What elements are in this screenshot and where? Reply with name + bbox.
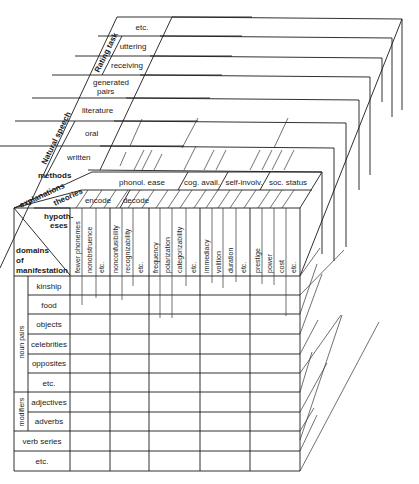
theory-cog-avail: cog. avail. <box>184 178 220 187</box>
domain-adjectives: adjectives <box>31 398 67 407</box>
method-receiving: receiving <box>111 61 143 70</box>
theory-soc-status: soc. status <box>269 178 307 187</box>
domain-adverbs: adverbs <box>35 417 63 426</box>
methods-label: methods <box>38 171 72 180</box>
domain-nounpairs-etc: etc. <box>43 379 56 388</box>
method-etc: etc. <box>136 23 149 32</box>
domains-of-label: of <box>16 256 24 265</box>
hyp-etc-2: etc. <box>137 262 144 273</box>
hyp-recognizability: recognizability <box>124 228 132 273</box>
hyp-etc-5: etc. <box>290 262 297 273</box>
hyp-polarization: polarization <box>164 237 172 273</box>
hyp-etc-3: etc. <box>190 262 197 273</box>
hyp-cost: cost <box>278 260 285 273</box>
domain-verb-series: verb series <box>22 437 61 446</box>
hyp-fewer-phonemes: fewer phonemes <box>74 221 82 273</box>
method-oral: oral <box>85 129 99 138</box>
group-modifiers: modifiers <box>18 397 25 426</box>
domain-row-labels: noun pairs modifiers kinship food object… <box>18 282 67 466</box>
hyp-volition: volition <box>215 251 222 273</box>
domain-objects: objects <box>36 320 61 329</box>
group-noun-pairs: noun pairs <box>18 325 26 358</box>
method-written: written <box>66 153 91 162</box>
method-uttering: uttering <box>120 42 147 51</box>
hypotheses-label-2: eses <box>50 221 68 230</box>
hyp-immediacy: immediacy <box>203 239 211 273</box>
method-literature: literature <box>82 106 114 115</box>
theory-phonol-ease: phonol. ease <box>119 178 165 187</box>
method-generated: generated <box>93 78 129 87</box>
domain-etc: etc. <box>36 457 49 466</box>
hyp-nonconfusibility: nonconfusibility <box>112 225 120 273</box>
subtheory-decode: decode <box>123 196 150 205</box>
theory-self-involv: self-involv. <box>225 178 262 187</box>
hyp-power: power <box>266 253 274 273</box>
hyp-categorizability: categorizability <box>176 226 184 273</box>
hyp-prestige: prestige <box>254 248 262 273</box>
methods-face: etc. uttering receiving generated pairs … <box>0 17 402 276</box>
domain-celebrities: celebrities <box>31 340 67 349</box>
domain-kinship: kinship <box>37 282 62 291</box>
subtheory-encode: encode <box>85 196 112 205</box>
hyp-nonobstruence: nonobstruence <box>86 227 93 273</box>
domain-opposites: opposites <box>32 359 66 368</box>
hyp-etc-4: etc. <box>240 262 247 273</box>
hyp-etc-1: etc. <box>98 262 105 273</box>
three-dimensional-research-cube-diagram: etc. uttering receiving generated pairs … <box>0 0 419 484</box>
domain-food: food <box>41 301 57 310</box>
domains-label: domains <box>16 246 49 255</box>
hypotheses-column-labels: fewer phonemes nonobstruence etc. noncon… <box>74 221 297 273</box>
front-face-grid: fewer phonemes nonobstruence etc. noncon… <box>14 190 300 471</box>
side-face-depth-lines <box>300 248 379 471</box>
manifestation-label: manifestation <box>16 266 68 275</box>
method-generated-pairs: pairs <box>97 87 114 96</box>
hypotheses-label: hypoth- <box>44 212 74 221</box>
hyp-frequency: frequency <box>152 242 160 273</box>
hyp-duration: duration <box>227 248 234 273</box>
